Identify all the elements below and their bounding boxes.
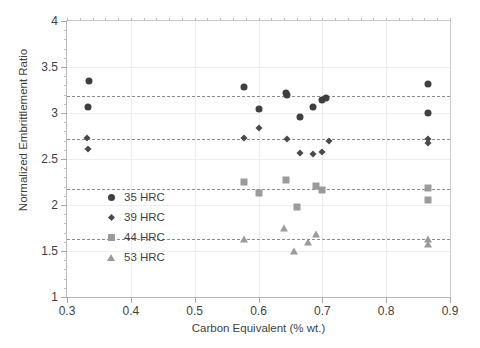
data-point-35-hrc [85, 103, 92, 110]
y-axis-minor-tick [64, 177, 67, 178]
y-axis-minor-tick [64, 269, 67, 270]
y-axis-minor-tick [64, 223, 67, 224]
x-axis-minor-tick [118, 18, 119, 21]
y-axis-minor-tick [64, 260, 67, 261]
y-axis-minor-tick [64, 150, 67, 151]
x-axis-minor-tick [284, 18, 285, 21]
y-axis-minor-tick [64, 85, 67, 86]
data-point-44-hrc [255, 190, 262, 197]
x-gridline [259, 21, 260, 297]
y-axis-tick [61, 251, 67, 252]
legend-item-35-hrc[interactable]: 35 HRC [105, 190, 165, 204]
y-axis-minor-tick [64, 288, 67, 289]
y-axis-minor-tick [64, 122, 67, 123]
y-axis-minor-tick [64, 104, 67, 105]
y-axis-minor-tick [64, 141, 67, 142]
y-axis-minor-tick [64, 76, 67, 77]
x-gridline [322, 21, 323, 297]
data-point-44-hrc [424, 197, 431, 204]
x-axis-tick-label: 0.3 [59, 304, 76, 318]
square-marker-icon [105, 231, 117, 243]
x-axis-tick-label: 0.8 [378, 304, 395, 318]
data-point-53-hrc [290, 248, 298, 255]
x-axis-tick-label: 0.4 [122, 304, 139, 318]
reference-line-39-hrc [67, 139, 450, 140]
x-axis-tick [450, 297, 451, 303]
y-axis-minor-tick [64, 233, 67, 234]
y-axis-tick-label: 4 [51, 14, 58, 28]
data-point-44-hrc [319, 187, 326, 194]
data-point-53-hrc [240, 236, 248, 243]
y-axis-tick-label: 2 [51, 198, 58, 212]
y-axis-minor-tick [64, 242, 67, 243]
y-axis-minor-tick [64, 196, 67, 197]
y-axis-minor-tick [64, 58, 67, 59]
data-point-35-hrc [284, 91, 291, 98]
y-axis-minor-tick [64, 131, 67, 132]
y-axis-tick [61, 113, 67, 114]
data-point-39-hrc [284, 135, 291, 142]
data-point-35-hrc [323, 95, 330, 102]
chart-legend: 35 HRC39 HRC44 HRC53 HRC [105, 190, 165, 264]
x-axis-tick [195, 297, 196, 303]
data-point-39-hrc [241, 134, 248, 141]
y-axis-tick-label: 1 [51, 290, 58, 304]
x-axis-minor-tick [144, 18, 145, 21]
y-axis-title: Normalized Embrittlement Ratio [12, 0, 34, 280]
legend-item-39-hrc[interactable]: 39 HRC [105, 210, 165, 224]
y-axis-minor-tick [64, 95, 67, 96]
data-point-44-hrc [241, 179, 248, 186]
circle-marker-icon [105, 191, 117, 203]
x-axis-minor-tick [169, 18, 170, 21]
x-axis-tick [67, 297, 68, 303]
data-point-39-hrc [424, 140, 431, 147]
y-axis-tick-label: 3 [51, 106, 58, 120]
x-axis-tick-label: 0.6 [250, 304, 267, 318]
data-point-35-hrc [424, 81, 431, 88]
scatter-chart-figure: Normalized Embrittlement Ratio 11.522.53… [0, 0, 480, 348]
y-axis-tick [61, 67, 67, 68]
data-point-39-hrc [296, 150, 303, 157]
legend-item-44-hrc[interactable]: 44 HRC [105, 230, 165, 244]
x-axis-title: Carbon Equivalent (% wt.) [66, 322, 451, 334]
data-point-53-hrc [304, 238, 312, 245]
data-point-35-hrc [255, 106, 262, 113]
y-axis-tick-label: 3.5 [41, 60, 58, 74]
x-axis-tick-label: 0.7 [314, 304, 331, 318]
y-axis-tick-label: 2.5 [41, 152, 58, 166]
data-point-39-hrc [319, 148, 326, 155]
data-point-35-hrc [86, 77, 93, 84]
y-axis-tick [61, 21, 67, 22]
x-axis-minor-tick [373, 18, 374, 21]
legend-item-label: 44 HRC [124, 231, 165, 243]
legend-item-53-hrc[interactable]: 53 HRC [105, 250, 165, 264]
x-axis-minor-tick [67, 18, 68, 21]
y-axis-tick-label: 1.5 [41, 244, 58, 258]
x-axis-minor-tick [399, 18, 400, 21]
x-axis-minor-tick [437, 18, 438, 21]
x-axis-minor-tick [361, 18, 362, 21]
reference-line-35-hrc [67, 96, 450, 97]
diamond-marker-icon [105, 211, 117, 223]
y-axis-minor-tick [64, 30, 67, 31]
x-axis-minor-tick [156, 18, 157, 21]
y-axis-minor-tick [64, 168, 67, 169]
data-point-44-hrc [424, 185, 431, 192]
y-axis-minor-tick [64, 214, 67, 215]
legend-item-label: 39 HRC [124, 211, 165, 223]
x-axis-minor-tick [348, 18, 349, 21]
data-point-44-hrc [282, 177, 289, 184]
data-point-39-hrc [309, 151, 316, 158]
x-axis-tick [322, 297, 323, 303]
x-axis-minor-tick [207, 18, 208, 21]
data-point-53-hrc [424, 240, 432, 247]
x-axis-minor-tick [424, 18, 425, 21]
x-axis-minor-tick [271, 18, 272, 21]
y-axis-tick [61, 159, 67, 160]
x-axis-minor-tick [246, 18, 247, 21]
x-axis-minor-tick [450, 18, 451, 21]
data-point-39-hrc [84, 134, 91, 141]
data-point-39-hrc [85, 145, 92, 152]
x-axis-minor-tick [233, 18, 234, 21]
legend-item-label: 53 HRC [124, 251, 165, 263]
